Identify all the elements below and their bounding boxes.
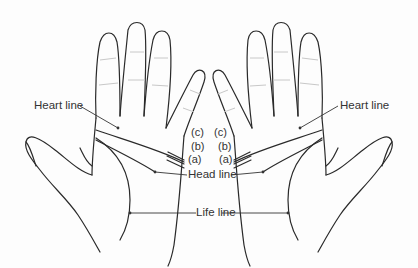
head-line-label: Head line — [188, 169, 237, 181]
marker-a-left: (a) — [188, 154, 201, 165]
left-hand-outline — [26, 23, 205, 267]
marker-c-left: (c) — [191, 127, 204, 138]
heart-line-label-left: Heart line — [34, 100, 83, 112]
marker-b-right: (b) — [218, 141, 231, 152]
palm-lines-diagram: Heart line Heart line Head line Life lin… — [0, 0, 418, 268]
marker-a-right: (a) — [219, 154, 232, 165]
marker-c-right: (c) — [214, 127, 227, 138]
marker-b-left: (b) — [191, 141, 204, 152]
life-line-label: Life line — [196, 207, 236, 219]
hands-illustration — [0, 0, 418, 268]
right-hand-outline — [213, 23, 392, 267]
heart-line-label-right: Heart line — [340, 100, 389, 112]
